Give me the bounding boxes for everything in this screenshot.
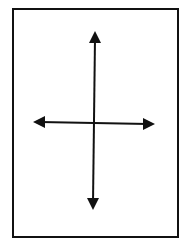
diagram-canvas (0, 0, 193, 248)
